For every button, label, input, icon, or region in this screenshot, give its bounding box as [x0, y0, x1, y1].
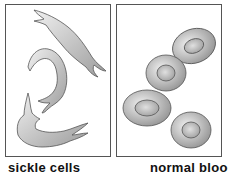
normal-cell-caption: normal blood cells [150, 160, 228, 172]
normal-cell-panel [116, 4, 222, 157]
red-blood-cell [123, 90, 171, 126]
sickle-cell-panel [5, 4, 111, 157]
sickle-cell-caption: sickle cells [8, 160, 80, 172]
red-blood-cell [146, 55, 186, 91]
red-blood-cell [171, 112, 211, 148]
sickle-cell [34, 10, 106, 77]
sickle-cell [28, 49, 67, 113]
